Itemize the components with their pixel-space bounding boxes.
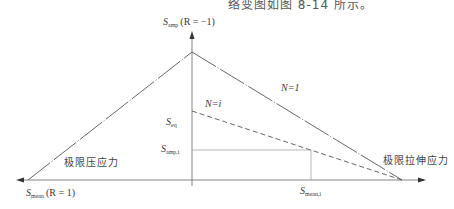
tensile-limit-label: 极限拉伸应力 — [383, 156, 449, 166]
y-axis-label: Samp(R = −1) — [163, 17, 215, 28]
n1-curve — [192, 52, 402, 180]
n1-label: N=1 — [281, 83, 299, 93]
x-axis-label: Smean(R = 1) — [26, 188, 75, 199]
s-eq-label: Seq — [166, 117, 177, 128]
diagram-canvas — [0, 0, 454, 209]
x-axis-arrow-right-icon — [418, 178, 426, 183]
s-amp-i-label: Samp,i — [161, 144, 180, 155]
y-axis-arrow-icon — [190, 31, 195, 39]
ni-label: N=i — [205, 99, 221, 109]
constant-life-diagram: 络变图如图 8-14 所示。 Samp(R = −1) Smean(R = 1) — [0, 0, 454, 209]
compressive-limit-label: 极限压应力 — [64, 158, 119, 168]
s-mean-i-label: Smean,i — [300, 186, 321, 197]
x-axis-arrow-left-icon — [16, 178, 24, 183]
ni-curve — [192, 111, 402, 180]
